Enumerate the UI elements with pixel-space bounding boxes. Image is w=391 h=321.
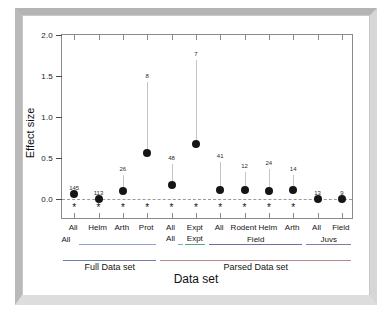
x-axis-category-label: All (69, 223, 78, 232)
dataset-bracket-label: Full Data set (84, 262, 135, 272)
x-axis-tick-bottom (245, 213, 246, 219)
x-axis-tick-bottom (99, 213, 100, 219)
significance-star: * (121, 203, 125, 213)
sample-size-label: 24 (265, 160, 272, 166)
x-axis-tick-bottom (196, 213, 197, 219)
significance-star: * (218, 203, 222, 213)
x-axis-tick-bottom (269, 213, 270, 219)
x-axis-category-label: Rodent (231, 223, 257, 232)
sample-size-label: 13 (314, 190, 321, 196)
x-axis-category-label: Prot (139, 223, 154, 232)
group-bracket-line (185, 244, 205, 245)
plot-axes-box: 0.00.51.01.52.0145*113*26*8*48*7*41*12*2… (61, 34, 353, 219)
x-axis-tick-top (220, 34, 221, 40)
y-axis-tick-label: 0.0 (41, 195, 53, 204)
data-point[interactable] (168, 181, 176, 189)
data-point[interactable] (216, 186, 224, 194)
significance-star: * (243, 203, 247, 213)
y-axis-title-text: Effect size (24, 73, 36, 193)
x-axis-category-label: All (166, 223, 175, 232)
x-axis-category-label: Field (332, 223, 349, 232)
x-axis-tick-top (172, 34, 173, 40)
y-axis-tick-label: 2.0 (41, 31, 53, 40)
x-axis-tick-bottom (318, 213, 319, 219)
x-axis-category-label: Arth (114, 223, 129, 232)
group-bracket-label: All (166, 234, 175, 243)
data-point[interactable] (338, 195, 346, 203)
sample-size-label: 145 (69, 185, 79, 191)
group-bracket-line (209, 244, 302, 245)
y-axis-tick: 1.0 (56, 117, 62, 118)
x-axis-tick-top (245, 34, 246, 40)
error-bar (147, 82, 148, 154)
sample-size-label: 7 (194, 51, 197, 57)
dataset-bracket-label: Parsed Data set (223, 262, 288, 272)
x-axis-tick-bottom (123, 213, 124, 219)
x-axis-tick-top (99, 34, 100, 40)
group-bracket-label: Field (247, 235, 264, 244)
data-point[interactable] (119, 187, 127, 195)
significance-star: * (97, 203, 101, 213)
data-point[interactable] (265, 187, 273, 195)
sample-size-label: 9 (340, 190, 343, 196)
y-axis-tick-label: 0.5 (41, 154, 53, 163)
significance-star: * (291, 203, 295, 213)
significance-star: * (194, 203, 198, 213)
significance-star: * (170, 203, 174, 213)
x-axis-tick-top (293, 34, 294, 40)
x-axis-category-label: Expt (187, 223, 203, 232)
y-axis-tick: 0.5 (56, 158, 62, 159)
y-axis-tick-label: 1.0 (41, 113, 53, 122)
x-axis-category-label: All (312, 223, 321, 232)
data-point[interactable] (95, 195, 103, 203)
data-point[interactable] (143, 149, 151, 157)
error-bar (196, 60, 197, 145)
dataset-bracket-line (63, 260, 156, 261)
x-axis-tick-top (147, 34, 148, 40)
significance-star: * (72, 203, 76, 213)
zero-reference-line (62, 199, 352, 200)
x-axis-tick-bottom (342, 213, 343, 219)
x-axis-category-label: Helm (258, 223, 277, 232)
x-axis-tick-bottom (220, 213, 221, 219)
group-bracket-label: Juvs (320, 235, 336, 244)
y-axis-tick-label: 1.5 (41, 72, 53, 81)
data-point[interactable] (192, 140, 200, 148)
x-axis-tick-top (342, 34, 343, 40)
sample-size-label: 12 (241, 163, 248, 169)
sample-size-label: 48 (168, 155, 175, 161)
data-point[interactable] (314, 195, 322, 203)
y-axis-tick: 2.0 (56, 35, 62, 36)
x-axis-tick-bottom (172, 213, 173, 219)
data-point[interactable] (241, 186, 249, 194)
x-axis-tick-top (269, 34, 270, 40)
x-axis-category-label: All (215, 223, 224, 232)
sample-size-label: 113 (94, 190, 104, 196)
plot-canvas: Effect size 0.00.51.01.52.0145*113*26*8*… (23, 16, 369, 295)
x-axis-tick-top (196, 34, 197, 40)
group-bracket-line (79, 244, 156, 245)
x-axis-tick-bottom (293, 213, 294, 219)
dataset-bracket-line (160, 260, 351, 261)
data-point[interactable] (289, 186, 297, 194)
group-bracket-label: All (61, 235, 70, 244)
sample-size-label: 14 (290, 166, 297, 172)
significance-star: * (145, 203, 149, 213)
significance-star: * (267, 203, 271, 213)
sample-size-label: 8 (145, 73, 148, 79)
group-bracket-label: Expt (187, 234, 203, 243)
x-axis-tick-top (123, 34, 124, 40)
data-point[interactable] (70, 190, 78, 198)
figure-frame: Effect size 0.00.51.01.52.0145*113*26*8*… (0, 0, 391, 321)
x-axis-category-label: Arth (285, 223, 300, 232)
x-axis-title: Data set (23, 272, 369, 286)
sample-size-label: 26 (119, 166, 126, 172)
group-bracket-line (306, 244, 351, 245)
sample-size-label: 41 (217, 153, 224, 159)
x-axis-category-label: Helm (88, 223, 107, 232)
y-axis-tick: 1.5 (56, 76, 62, 77)
x-axis-tick-top (74, 34, 75, 40)
x-axis-tick-bottom (147, 213, 148, 219)
group-bracket-line (178, 244, 183, 245)
x-axis-tick-top (318, 34, 319, 40)
